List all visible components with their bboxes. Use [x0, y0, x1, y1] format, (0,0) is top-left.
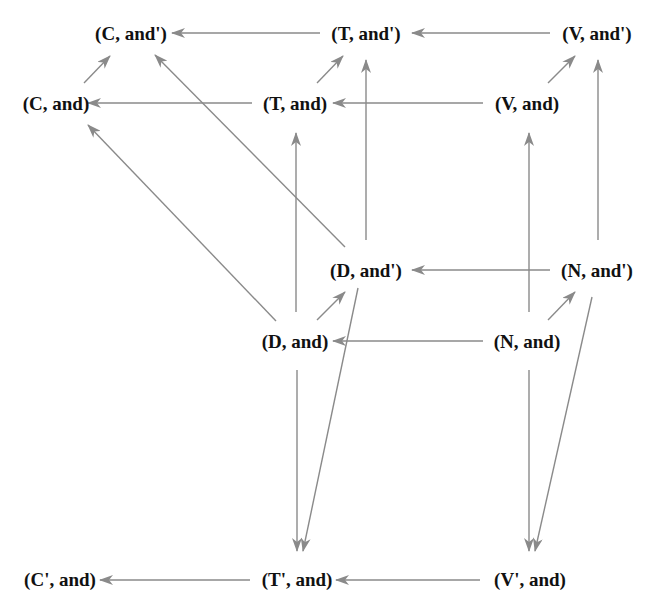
edge-t_and-to-t_andp [317, 56, 343, 83]
node-v-prime-and: (V', and) [494, 570, 566, 589]
node-n-and-prime: (N, and') [561, 261, 633, 280]
node-d-and-prime: (D, and') [330, 261, 402, 280]
edge-d_andp-to-tp_and [303, 288, 358, 551]
node-t-and: (T, and) [263, 94, 327, 113]
node-d-and: (D, and) [262, 332, 329, 351]
edge-d_and-to-d_andp [317, 292, 345, 320]
edge-c_and-to-c_andp [84, 56, 110, 83]
edge-d_and-to-c_and [88, 125, 276, 321]
node-c-and-prime: (C, and') [95, 24, 167, 43]
node-n-and: (N, and) [494, 332, 561, 351]
edge-v_and-to-v_andp [548, 56, 575, 83]
edge-layer [0, 0, 664, 597]
lattice-diagram: (C, and') (T, and') (V, and') (C, and) (… [0, 0, 664, 597]
node-v-and-prime: (V, and') [562, 24, 631, 43]
node-c-and: (C, and) [23, 94, 90, 113]
edge-n_and-to-n_andp [548, 292, 575, 320]
node-v-and: (V, and) [495, 94, 559, 113]
edge-d_andp-to-c_andp [155, 55, 345, 247]
node-t-prime-and: (T', and) [262, 570, 333, 589]
node-t-and-prime: (T, and') [331, 24, 400, 43]
node-c-prime-and: (C', and) [24, 570, 96, 589]
